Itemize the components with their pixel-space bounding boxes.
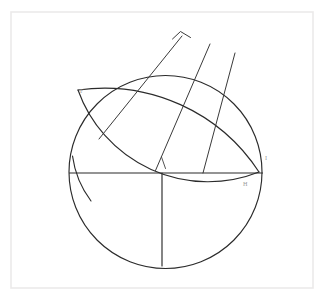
point-label-h: H (243, 180, 248, 187)
radial-line-1 (99, 36, 182, 139)
arc-tick-mark (162, 157, 166, 169)
lens-upper-arc (78, 88, 259, 172)
figure-canvas: F I H (0, 0, 328, 302)
caret-angle-mark (173, 32, 191, 40)
circle-left-tail-arc (73, 156, 92, 201)
lens-lower-arc (78, 90, 259, 182)
radial-line-3 (203, 53, 235, 173)
point-label-f: F (80, 87, 84, 94)
main-circle (69, 76, 262, 269)
geometry-diagram: F I H (0, 0, 328, 302)
point-label-i: I (265, 154, 267, 161)
radial-line-2 (156, 44, 211, 171)
